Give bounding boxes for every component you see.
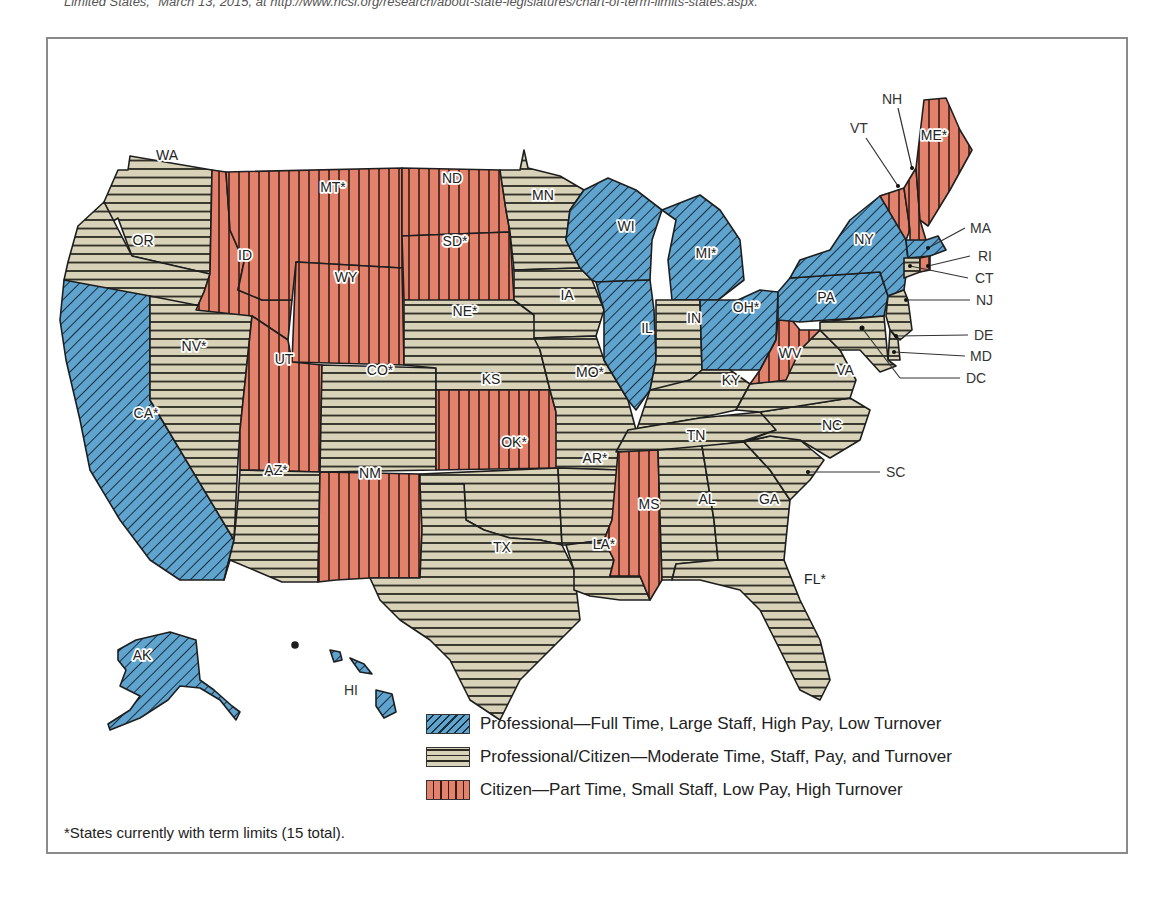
professional-swatch-icon [426, 714, 470, 734]
label-tx: TX [493, 539, 512, 555]
label-al: AL [698, 491, 715, 507]
state-ak[interactable] [108, 632, 240, 730]
label-nh: NH [882, 91, 902, 107]
label-wa: WA [156, 147, 179, 163]
legend: Professional—Full Time, Large Staff, Hig… [426, 707, 952, 806]
label-ri: RI [978, 248, 992, 264]
state-hi-1[interactable] [330, 650, 342, 662]
hybrid-swatch-icon [426, 747, 470, 767]
label-nd: ND [442, 170, 462, 186]
label-ma: MA [970, 220, 992, 236]
state-ks[interactable] [436, 390, 558, 470]
label-or: OR [133, 232, 154, 248]
legend-label: Citizen—Part Time, Small Staff, Low Pay,… [480, 780, 903, 800]
label-il: IL [641, 320, 653, 336]
label-ny: NY [854, 231, 874, 247]
label-dc: DC [966, 370, 986, 386]
label-nv: NV* [182, 338, 207, 354]
state-az[interactable] [224, 470, 320, 582]
term-limits-footnote: *States currently with term limits (15 t… [64, 824, 345, 841]
citizen-swatch-icon [426, 780, 470, 800]
label-wi: WI [617, 218, 634, 234]
legend-label: Professional—Full Time, Large Staff, Hig… [480, 714, 941, 734]
label-mt: MT* [320, 179, 346, 195]
legend-item-professional: Professional—Full Time, Large Staff, Hig… [426, 707, 952, 740]
label-ks: KS [482, 371, 501, 387]
label-la: LA* [593, 536, 616, 552]
label-nj: NJ [976, 292, 993, 308]
state-ma[interactable] [906, 236, 946, 258]
label-tn: TN [687, 427, 706, 443]
label-ak: AK [133, 647, 152, 663]
label-ne: NE* [453, 303, 478, 319]
hi-island-dot [292, 642, 298, 648]
label-ut: UT [275, 351, 294, 367]
state-me[interactable] [916, 98, 972, 226]
label-ar: AR* [583, 450, 608, 466]
label-ms: MS [639, 496, 660, 512]
label-sd: SD* [443, 233, 468, 249]
label-sc: SC [886, 464, 905, 480]
label-id: ID [238, 247, 252, 263]
state-nm[interactable] [318, 472, 422, 582]
state-hi-2[interactable] [350, 658, 372, 674]
label-mi: MI* [696, 245, 718, 261]
label-md: MD [970, 348, 992, 364]
label-wy: WY [335, 269, 358, 285]
label-fl: FL* [804, 571, 826, 587]
label-ga: GA [759, 491, 780, 507]
legend-label: Professional/Citizen—Moderate Time, Staf… [480, 747, 952, 767]
label-mn: MN [532, 187, 554, 203]
label-me: ME* [921, 127, 948, 143]
label-oh: OH* [733, 299, 760, 315]
legend-item-citizen: Citizen—Part Time, Small Staff, Low Pay,… [426, 773, 952, 806]
label-ky: KY [722, 372, 741, 388]
label-nc: NC [822, 417, 842, 433]
label-wv: WV [779, 345, 802, 361]
label-pa: PA [817, 289, 835, 305]
state-hi-3[interactable] [376, 690, 396, 718]
label-ca: CA* [134, 405, 159, 421]
label-az: AZ* [264, 462, 288, 478]
label-in: IN [687, 310, 701, 326]
label-ia: IA [560, 287, 574, 303]
state-co[interactable] [320, 365, 436, 472]
label-va: VA [836, 362, 854, 378]
legend-item-hybrid: Professional/Citizen—Moderate Time, Staf… [426, 740, 952, 773]
label-ct: CT [975, 270, 994, 286]
label-mo: MO* [576, 364, 605, 380]
label-co: CO* [367, 362, 394, 378]
label-de: DE [974, 327, 993, 343]
label-ok: OK* [501, 434, 527, 450]
label-hi: HI [344, 682, 358, 698]
label-nm: NM [359, 465, 381, 481]
label-vt: VT [850, 120, 868, 136]
